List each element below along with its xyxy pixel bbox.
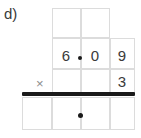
multiplication-operator: × [36, 77, 44, 90]
answer-cell-2[interactable] [52, 97, 81, 130]
multiplicand-digit-2: 0 [81, 48, 109, 63]
worksheet-problem-panel: d) 6 0 9 × 3 [0, 0, 141, 138]
multiplier-cell-1[interactable] [52, 69, 81, 93]
problem-label: d) [4, 6, 17, 21]
answer-decimal-point [78, 113, 83, 118]
answer-cell-1[interactable] [22, 97, 52, 130]
answer-cell-3[interactable] [81, 97, 110, 130]
answer-cell-4[interactable] [110, 97, 135, 130]
carry-cell-1[interactable] [52, 8, 81, 38]
carry-cell-2[interactable] [81, 8, 110, 38]
multiplicand-digit-3: 9 [108, 48, 136, 63]
multiplicand-digit-1: 6 [52, 48, 80, 63]
multiplier-digit-1: 3 [108, 74, 136, 89]
answer-separator-bar [22, 92, 135, 96]
multiplier-cell-2[interactable] [81, 69, 110, 93]
multiplicand-decimal-point [78, 56, 82, 60]
